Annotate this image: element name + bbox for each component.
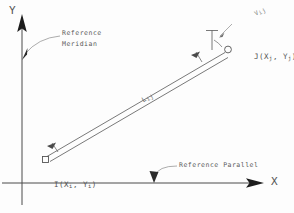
station-i-mid: , Y: [73, 180, 88, 189]
parallel-leader-line: [155, 166, 177, 176]
y-axis-label: Y: [9, 4, 16, 17]
reference-parallel-label: Reference Parallel: [179, 161, 258, 170]
azimuth-leader-arrowhead: [219, 33, 225, 38]
x-axis-label: X: [271, 175, 278, 188]
parallel-leader-arrowhead: [150, 171, 159, 183]
station-i-prefix: I(X: [54, 180, 69, 189]
station-i-label: I(Xi, Yi): [34, 171, 97, 198]
figure-canvas: Y X Reference Meridian Reference Paralle…: [0, 0, 294, 213]
station-j-prefix: J(X: [254, 52, 269, 61]
station-i-marker: [43, 157, 49, 163]
meridian-leader-arrowhead: [22, 48, 28, 60]
reference-meridian-label-line1: Reference: [62, 29, 102, 38]
azimuth-leader: [220, 24, 232, 36]
azimuth-arc: [214, 40, 222, 47]
station-j-marker: [225, 46, 232, 53]
traverse-length-sub: ij: [145, 93, 155, 102]
station-j-label: J(Xj, Yj): [234, 43, 294, 70]
station-j-suffix: ): [292, 52, 294, 61]
reference-meridian-label-line2: Meridian: [62, 40, 97, 49]
direction-arrowhead-at-i: [47, 143, 56, 150]
station-j-mid: , Y: [273, 52, 288, 61]
meridian-leader-line: [25, 36, 60, 54]
station-i-suffix: ): [92, 180, 97, 189]
